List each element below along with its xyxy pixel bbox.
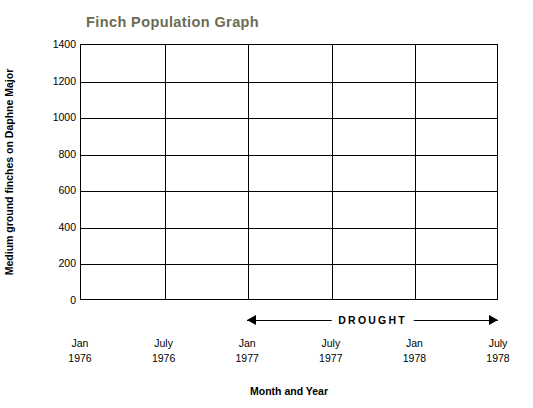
x-tick-label: Jan1977	[212, 336, 282, 366]
gridline-horizontal	[81, 191, 497, 192]
arrow-head-right-icon	[489, 315, 498, 325]
x-tick-year: 1977	[212, 351, 282, 366]
x-tick-month: July	[463, 336, 533, 351]
gridline-horizontal	[81, 82, 497, 83]
y-tick-label: 1000	[53, 111, 76, 123]
x-tick-year: 1976	[129, 351, 199, 366]
drought-label: DROUGHT	[331, 312, 413, 329]
plot-area	[80, 44, 498, 300]
x-axis-label: Month and Year	[80, 385, 498, 397]
x-tick-label: July1978	[463, 336, 533, 366]
gridline-horizontal	[81, 155, 497, 156]
arrow-head-left-icon	[247, 315, 256, 325]
x-tick-year: 1978	[379, 351, 449, 366]
y-tick-label: 200	[58, 257, 76, 269]
finch-population-chart: Finch Population Graph Medium ground fin…	[0, 0, 533, 408]
x-tick-month: July	[129, 336, 199, 351]
gridline-vertical	[248, 45, 249, 299]
gridline-horizontal	[81, 118, 497, 119]
y-axis-tick-labels: 0200400600800100012001400	[40, 44, 76, 300]
x-tick-label: Jan1978	[379, 336, 449, 366]
y-tick-label: 800	[58, 148, 76, 160]
x-tick-year: 1977	[296, 351, 366, 366]
x-tick-year: 1978	[463, 351, 533, 366]
x-tick-year: 1976	[45, 351, 115, 366]
x-tick-month: July	[296, 336, 366, 351]
gridline-horizontal	[81, 264, 497, 265]
y-axis-label: Medium ground finches on Daphne Major	[0, 44, 18, 300]
gridline-horizontal	[81, 228, 497, 229]
gridline-vertical	[165, 45, 166, 299]
x-tick-month: Jan	[379, 336, 449, 351]
x-tick-month: Jan	[212, 336, 282, 351]
gridline-vertical	[415, 45, 416, 299]
y-tick-label: 0	[70, 294, 76, 306]
y-tick-label: 1400	[53, 38, 76, 50]
drought-annotation: DROUGHT	[247, 312, 498, 330]
x-tick-label: July1977	[296, 336, 366, 366]
x-tick-month: Jan	[45, 336, 115, 351]
gridline-vertical	[332, 45, 333, 299]
x-tick-label: July1976	[129, 336, 199, 366]
x-axis-tick-labels: Jan1976July1976Jan1977July1977Jan1978Jul…	[80, 336, 498, 370]
x-tick-label: Jan1976	[45, 336, 115, 366]
chart-title: Finch Population Graph	[86, 14, 259, 30]
y-tick-label: 600	[58, 184, 76, 196]
y-tick-label: 1200	[53, 75, 76, 87]
y-tick-label: 400	[58, 221, 76, 233]
